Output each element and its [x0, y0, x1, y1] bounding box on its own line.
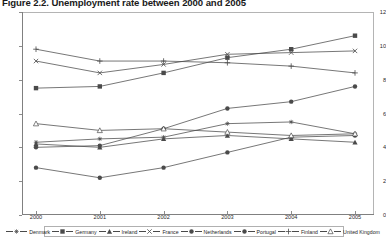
plus-marker — [225, 60, 231, 66]
cross-x-marker — [148, 229, 152, 233]
filled-circle-marker — [34, 165, 38, 169]
cross-x-marker — [146, 228, 153, 235]
data-lines-layer — [0, 8, 386, 219]
filled-triangle-marker — [106, 229, 111, 234]
x-tick-label: 2000 — [16, 214, 56, 221]
legend-item-ireland[interactable]: Ireland — [99, 228, 140, 235]
chart-figure: Figure 2.2. Unemployment rate between 20… — [0, 0, 386, 239]
open-triangle-marker — [328, 229, 333, 234]
x-tick-label: 2003 — [207, 214, 247, 221]
legend-label: Germany — [73, 229, 98, 235]
filled-square-marker — [61, 229, 65, 233]
legend-label: Denmark — [27, 229, 52, 235]
x-tick-label: 2002 — [144, 214, 184, 221]
series-line — [36, 135, 355, 177]
legend-item-germany[interactable]: Germany — [52, 228, 98, 235]
x-tick-mark — [36, 211, 37, 214]
asterisk-marker — [14, 229, 18, 233]
legend-label: United Kingdom — [341, 229, 382, 235]
plus-marker — [33, 46, 39, 52]
filled-square-marker — [161, 71, 165, 75]
legend-label: Ireland — [120, 229, 140, 235]
legend-line-segment — [292, 231, 299, 232]
x-axis-ticks: 200020012002200320042005 — [0, 214, 386, 222]
asterisk-marker — [225, 121, 229, 125]
legend-item-united-kingdom[interactable]: United Kingdom — [320, 228, 382, 235]
x-tick-label: 2005 — [335, 214, 375, 221]
open-triangle-marker — [33, 121, 38, 126]
x-tick-mark — [355, 211, 356, 214]
filled-circle-marker — [161, 165, 165, 169]
filled-circle-marker — [225, 106, 229, 110]
filled-circle-marker — [225, 150, 229, 154]
legend-label: France — [160, 229, 180, 235]
legend-item-france[interactable]: France — [139, 228, 180, 235]
series-denmark — [34, 120, 357, 145]
series-netherlands — [34, 133, 357, 180]
plus-marker — [97, 58, 103, 64]
legend-line-segment — [334, 231, 341, 232]
legend-label: Portugal — [255, 229, 278, 235]
filled-circle-marker — [241, 228, 248, 235]
legend-label: Netherlands — [202, 229, 234, 235]
filled-circle-marker — [242, 229, 246, 233]
asterisk-marker — [289, 120, 293, 124]
x-tick-label: 2001 — [80, 214, 120, 221]
filled-circle-marker — [189, 229, 193, 233]
filled-circle-marker — [289, 99, 293, 103]
x-tick-label: 2004 — [271, 214, 311, 221]
legend-line-segment — [234, 231, 241, 232]
plus-marker — [352, 70, 358, 76]
legend-line-segment — [248, 231, 255, 232]
filled-circle-marker — [98, 176, 102, 180]
asterisk-marker — [98, 137, 102, 141]
legend-line-segment — [6, 231, 13, 232]
plus-marker — [285, 228, 292, 235]
filled-square-marker — [353, 33, 357, 37]
legend-item-portugal[interactable]: Portugal — [234, 228, 278, 235]
series-united-kingdom — [33, 121, 357, 138]
chart-legend: DenmarkGermanyIrelandFranceNetherlandsPo… — [44, 226, 344, 237]
legend-line-segment — [113, 231, 120, 232]
filled-square-marker — [34, 86, 38, 90]
legend-item-netherlands[interactable]: Netherlands — [181, 228, 234, 235]
legend-line-segment — [278, 231, 285, 232]
legend-item-finland[interactable]: Finland — [278, 228, 320, 235]
series-line — [36, 49, 355, 73]
filled-square-marker — [59, 228, 66, 235]
x-tick-mark — [100, 211, 101, 214]
series-line — [36, 122, 355, 142]
legend-line-segment — [139, 231, 146, 232]
legend-line-segment — [20, 231, 27, 232]
plot-area: 121086420 — [0, 8, 386, 214]
legend-line-segment — [52, 231, 59, 232]
legend-item-denmark[interactable]: Denmark — [6, 228, 52, 235]
filled-circle-marker — [188, 228, 195, 235]
legend-line-segment — [66, 231, 73, 232]
legend-line-segment — [320, 231, 327, 232]
series-line — [36, 86, 355, 147]
x-tick-mark — [227, 211, 228, 214]
plus-marker — [288, 63, 294, 69]
figure-title: Figure 2.2. Unemployment rate between 20… — [2, 0, 382, 8]
x-tick-mark — [291, 211, 292, 214]
legend-line-segment — [99, 231, 106, 232]
legend-label: Finland — [299, 229, 320, 235]
filled-triangle-marker — [106, 228, 113, 235]
asterisk-marker — [13, 228, 20, 235]
filled-circle-marker — [353, 84, 357, 88]
legend-line-segment — [195, 231, 202, 232]
series-line — [36, 135, 355, 147]
series-finland — [33, 46, 358, 75]
open-triangle-marker — [327, 228, 334, 235]
filled-square-marker — [98, 84, 102, 88]
legend-line-segment — [181, 231, 188, 232]
legend-line-segment — [153, 231, 160, 232]
x-tick-mark — [164, 211, 165, 214]
series-line — [36, 124, 355, 136]
filled-circle-marker — [98, 143, 102, 147]
plus-marker — [286, 229, 292, 235]
filled-circle-marker — [34, 145, 38, 149]
